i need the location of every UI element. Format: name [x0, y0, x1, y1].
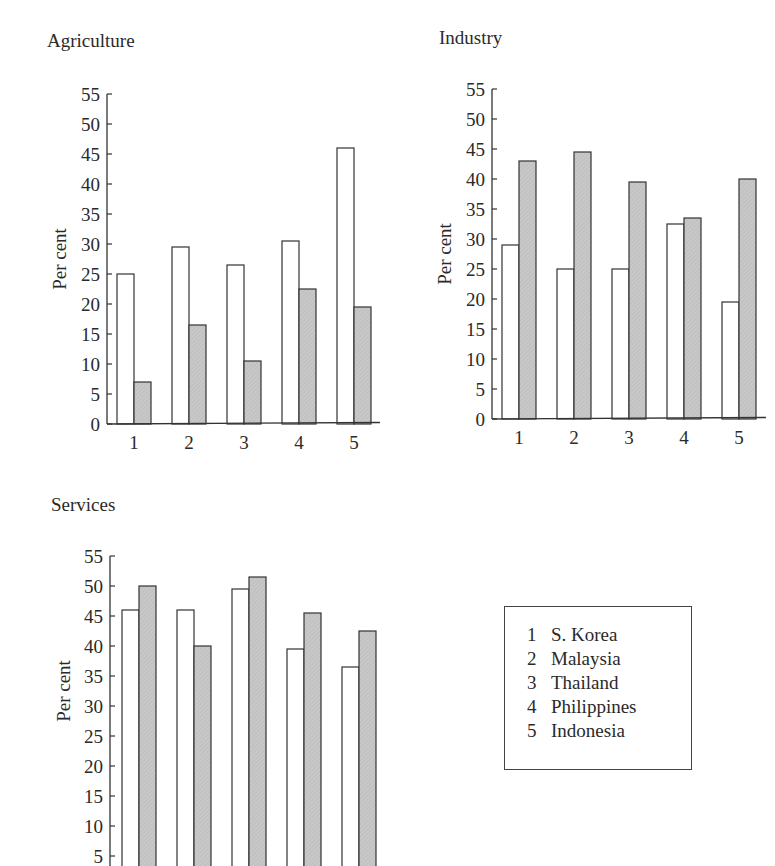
bar-services-4-white: white (unshaded) bars 4: 39.5 [287, 649, 304, 866]
bar-services-2-white: white (unshaded) bars 2: 46 [177, 610, 194, 866]
legend-number: 2 [527, 647, 551, 671]
legend-item: 4Philippines [527, 695, 637, 719]
bar-services-3-shaded: shaded bars 3: 51.5 [249, 577, 266, 866]
chart-legend: 1S. Korea 2Malaysia 3Thailand 4Philippin… [504, 606, 692, 770]
y-tick-label: 45 [84, 606, 103, 627]
legend-label: Indonesia [551, 720, 625, 741]
legend-number: 5 [527, 719, 551, 743]
legend-number: 1 [527, 623, 551, 647]
bar-services-5-white: white (unshaded) bars 5: 36.5 [342, 667, 359, 866]
legend-item: 2Malaysia [527, 647, 637, 671]
bar-services-3-white: white (unshaded) bars 3: 49.5 [232, 589, 249, 866]
y-tick-label: 35 [84, 666, 103, 687]
y-tick-label: 55 [84, 546, 103, 567]
legend-label: S. Korea [551, 624, 617, 645]
bar-services-1-white: white (unshaded) bars 1: 46 [122, 610, 139, 866]
y-tick-label: 25 [84, 726, 103, 747]
legend-label: Thailand [551, 672, 619, 693]
bar-services-5-shaded: shaded bars 5: 42.5 [359, 631, 376, 866]
y-tick-label: 5 [94, 846, 104, 866]
y-tick-label: 30 [84, 696, 103, 717]
legend-number: 3 [527, 671, 551, 695]
legend-item: 3Thailand [527, 671, 637, 695]
legend-label: Malaysia [551, 648, 621, 669]
bar-services-1-shaded: shaded bars 1: 50 [139, 586, 156, 866]
bar-services-4-shaded: shaded bars 4: 45.5 [304, 613, 321, 866]
y-axis-label: Per cent [53, 659, 74, 721]
legend-number: 4 [527, 695, 551, 719]
legend-item: 5Indonesia [527, 719, 637, 743]
y-tick-label: 40 [84, 636, 103, 657]
legend-item: 1S. Korea [527, 623, 637, 647]
y-tick-label: 15 [84, 786, 103, 807]
legend-label: Philippines [551, 696, 637, 717]
bar-services-2-shaded: shaded bars 2: 40 [194, 646, 211, 866]
y-tick-label: 10 [84, 816, 103, 837]
y-tick-label: 50 [84, 576, 103, 597]
y-tick-label: 20 [84, 756, 103, 777]
legend-list: 1S. Korea 2Malaysia 3Thailand 4Philippin… [527, 623, 637, 743]
